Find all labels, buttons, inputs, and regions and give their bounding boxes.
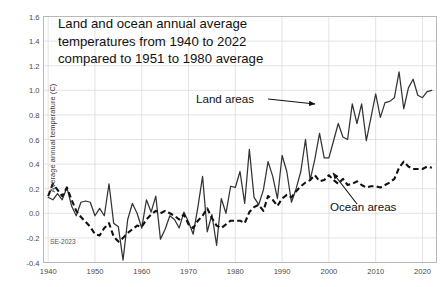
chart-title: Land and ocean annual average temperatur… — [58, 15, 263, 68]
x-axis-tick-label: 2010 — [367, 267, 384, 276]
y-axis-tick-label: 0.2 — [18, 184, 40, 193]
y-axis-label-container: Average annual temperature (C) — [2, 14, 16, 262]
y-axis-label: Average annual temperature (C) — [48, 84, 57, 193]
x-axis-tick-label: 1960 — [133, 267, 150, 276]
y-axis-tick-label: 0.8 — [18, 110, 40, 119]
land-areas-arrow — [268, 99, 315, 104]
x-axis-tick-label: 1940 — [40, 267, 57, 276]
annotation-ocean-areas: Ocean areas — [330, 200, 396, 213]
y-axis-tick-label: 1.0 — [18, 86, 40, 95]
y-axis-tick-label: 1.4 — [18, 37, 40, 46]
x-axis-tick-label: 1950 — [87, 267, 104, 276]
x-axis-tick-label: 2020 — [414, 267, 431, 276]
x-axis-tick-label: 1970 — [180, 267, 197, 276]
y-axis-tick-label: 1.6 — [18, 12, 40, 21]
y-axis-tick-label: 0.0 — [18, 209, 40, 218]
x-axis-tick-label: 1990 — [274, 267, 291, 276]
chart-title-line-2: temperatures from 1940 to 2022 — [58, 33, 263, 51]
chart-title-line-3: compared to 1951 to 1980 average — [58, 50, 263, 68]
y-axis-tick-label: 1.2 — [18, 61, 40, 70]
source-watermark: SE-2023 — [50, 238, 76, 245]
x-axis-tick-label: 2000 — [320, 267, 337, 276]
temperature-anomaly-chart: Average annual temperature (C) -0.4-0.20… — [0, 0, 447, 287]
y-axis-tick-label: 0.4 — [18, 160, 40, 169]
y-axis-tick-label: 0.6 — [18, 135, 40, 144]
x-axis-tick-label: 1980 — [227, 267, 244, 276]
annotation-land-areas: Land areas — [196, 92, 254, 105]
chart-title-line-1: Land and ocean annual average — [58, 15, 263, 33]
y-axis-tick-label: -0.4 — [18, 258, 40, 267]
y-axis-tick-label: -0.2 — [18, 233, 40, 242]
